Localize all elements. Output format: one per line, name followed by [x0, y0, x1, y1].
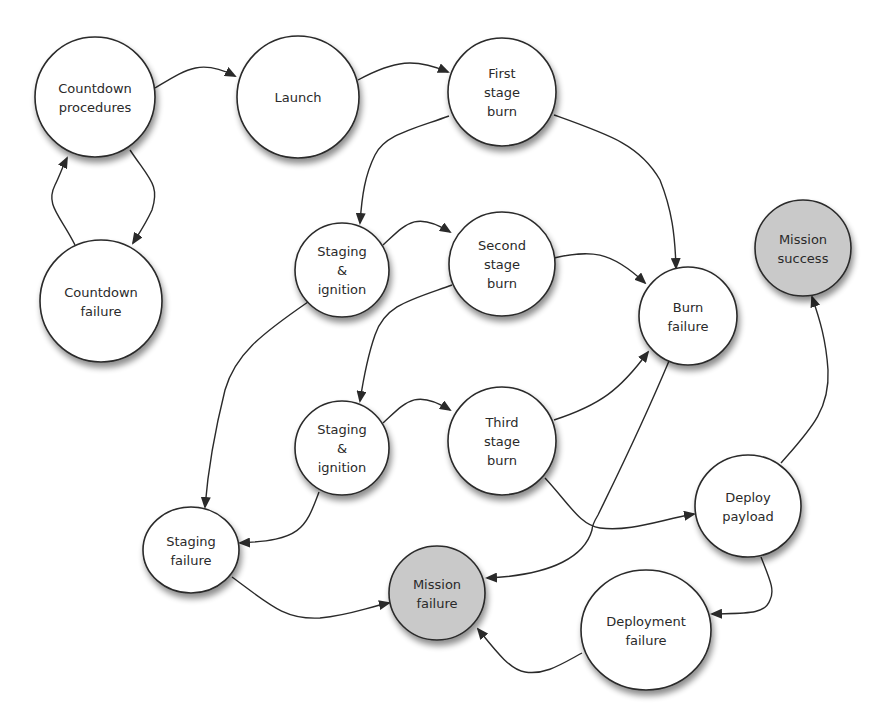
node-label-line: Staging [317, 244, 367, 259]
node-label-line: Staging [317, 422, 367, 437]
node-label-line: stage [484, 257, 520, 272]
edge-third-stage-burn-to-burn-failure [554, 352, 648, 420]
node-label-line: stage [484, 85, 520, 100]
node-label-line: Third [484, 415, 518, 430]
edge-deploy-payload-to-deployment-failure [712, 557, 772, 614]
node-label-line: ignition [318, 460, 367, 475]
edge-third-stage-burn-to-deploy-payload [545, 478, 694, 529]
edge-staging-ignition-2-to-staging-failure [240, 492, 319, 543]
node-label-line: ignition [318, 282, 367, 297]
nodes-layer: CountdownproceduresLaunchFirststageburnC… [35, 36, 851, 690]
state-circle [639, 267, 737, 365]
state-circle [695, 455, 801, 557]
node-staging-ignition-1: Staging&ignition [295, 223, 389, 317]
state-circle [35, 37, 155, 157]
node-label-line: & [337, 263, 347, 278]
state-circle [581, 570, 711, 690]
node-label-line: First [488, 66, 515, 81]
node-burn-failure: Burnfailure [639, 267, 737, 365]
node-first-stage-burn: Firststageburn [448, 38, 556, 146]
node-staging-ignition-2: Staging&ignition [295, 401, 389, 495]
edge-staging-ignition-1-to-staging-failure [205, 302, 308, 507]
node-countdown-procedures: Countdownprocedures [35, 37, 155, 157]
state-circle [40, 240, 162, 362]
node-label-line: Burn [673, 300, 704, 315]
node-label-line: Mission [779, 232, 827, 247]
node-label-line: Mission [413, 577, 461, 592]
node-label-line: burn [487, 453, 517, 468]
node-label-line: Countdown [58, 81, 132, 96]
edge-deployment-failure-to-mission-failure [478, 629, 582, 673]
terminal-state-circle [389, 546, 485, 640]
edge-staging-ignition-2-to-third-stage-burn [383, 399, 450, 423]
node-label-line: & [337, 441, 347, 456]
terminal-state-circle [755, 200, 851, 296]
node-label-line: burn [487, 276, 517, 291]
node-label-line: Deployment [606, 614, 686, 629]
node-deployment-failure: Deploymentfailure [581, 570, 711, 690]
node-label-line: failure [80, 304, 121, 319]
edge-staging-failure-to-mission-failure [232, 577, 389, 618]
node-third-stage-burn: Thirdstageburn [448, 387, 556, 495]
node-mission-failure: Missionfailure [389, 546, 485, 640]
node-label-line: Launch [274, 90, 321, 105]
node-label-line: stage [484, 434, 520, 449]
state-diagram: CountdownproceduresLaunchFirststageburnC… [0, 0, 886, 727]
node-label-line: payload [722, 509, 774, 524]
node-label-line: Deploy [725, 490, 771, 505]
edge-countdown-failure-to-countdown-procedures [52, 158, 75, 245]
node-launch: Launch [237, 36, 359, 158]
node-label-line: failure [416, 596, 457, 611]
node-countdown-failure: Countdownfailure [40, 240, 162, 362]
node-second-stage-burn: Secondstageburn [449, 212, 555, 316]
edge-staging-ignition-1-to-second-stage-burn [383, 221, 450, 245]
node-deploy-payload: Deploypayload [695, 455, 801, 557]
node-label-line: success [778, 251, 829, 266]
state-circle [143, 507, 239, 593]
edge-countdown-procedures-to-launch [155, 67, 235, 88]
node-label-line: Staging [166, 534, 216, 549]
edge-second-stage-burn-to-burn-failure [554, 254, 645, 283]
node-label-line: failure [625, 633, 666, 648]
node-label-line: Second [478, 238, 526, 253]
node-staging-failure: Stagingfailure [143, 507, 239, 593]
node-label-line: failure [667, 319, 708, 334]
node-label-line: procedures [59, 100, 132, 115]
edge-launch-to-first-stage-burn [358, 63, 448, 80]
node-label-line: failure [170, 553, 211, 568]
node-mission-success: Missionsuccess [755, 200, 851, 296]
node-label-line: burn [487, 104, 517, 119]
edge-first-stage-burn-to-staging-ignition-1 [360, 116, 449, 223]
edge-countdown-procedures-to-countdown-failure [130, 150, 155, 243]
node-label-line: Countdown [64, 285, 138, 300]
edge-first-stage-burn-to-burn-failure [554, 115, 676, 268]
edge-deploy-payload-to-mission-success [781, 297, 828, 463]
